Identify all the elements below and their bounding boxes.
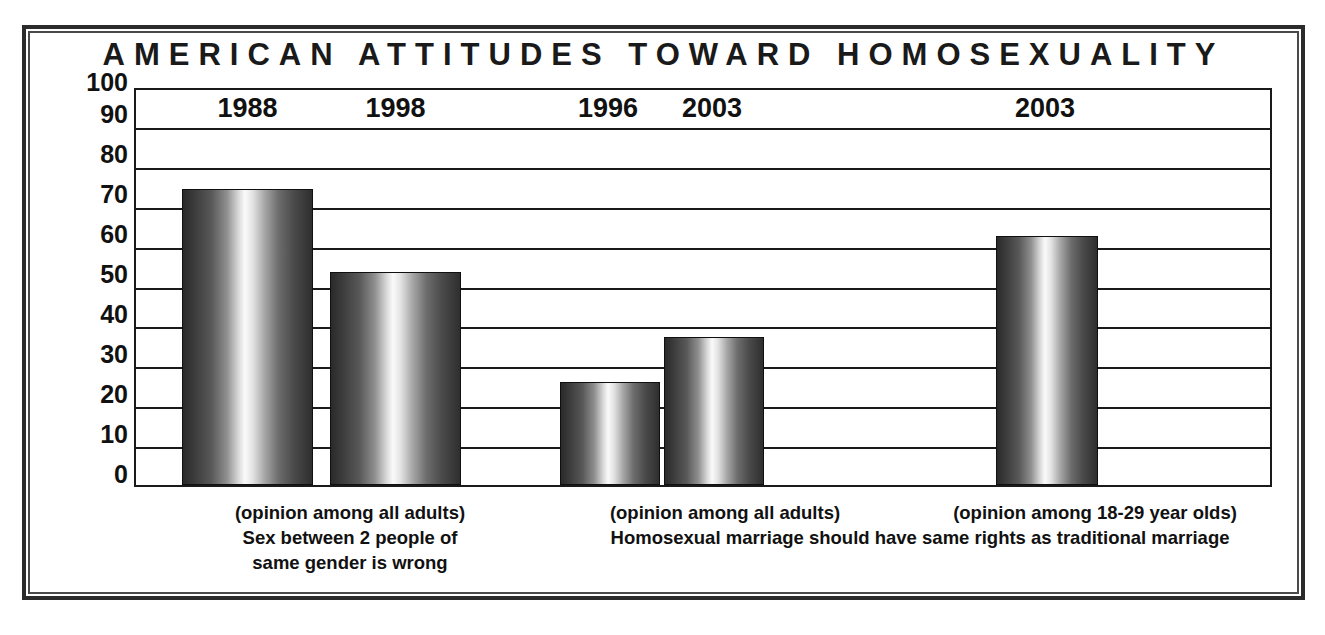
year-label-2003-all-adults: 2003 [662,93,762,124]
chart-title: AMERICAN ATTITUDES TOWARD HOMOSEXUALITY [28,33,1299,77]
y-tick-40: 40 [36,302,128,327]
gridline-90 [136,128,1270,130]
caption-group-1-population: (opinion among all adults) [150,500,550,525]
y-tick-70: 70 [36,182,128,207]
y-tick-10: 10 [36,422,128,447]
bar-1998 [330,272,461,485]
bar-1996 [560,382,660,485]
caption-group-1-question-line-2: same gender is wrong [150,550,550,575]
y-tick-50: 50 [36,262,128,287]
y-tick-80: 80 [36,142,128,167]
y-tick-90: 90 [36,102,128,127]
year-label-1998: 1998 [330,93,461,124]
year-label-1996: 1996 [558,93,658,124]
caption-group-1: (opinion among all adults) Sex between 2… [150,500,550,575]
bar-2003-18-29 [996,236,1098,485]
y-tick-30: 30 [36,342,128,367]
plot-area [134,88,1272,487]
y-tick-60: 60 [36,222,128,247]
caption-group-2-population: (opinion among all adults) [560,500,890,525]
gridline-80 [136,168,1270,170]
bar-2003-all-adults [664,337,764,485]
year-label-2003-18-29: 2003 [994,93,1096,124]
caption-group-2-population-text: (opinion among all adults) [560,500,890,525]
y-axis: 100 90 80 70 60 50 40 30 20 10 0 [36,70,128,510]
y-tick-20: 20 [36,382,128,407]
bar-1988 [182,189,313,485]
year-label-1988: 1988 [182,93,313,124]
y-tick-0: 0 [36,462,128,487]
caption-group-1-question-line-1: Sex between 2 people of [150,525,550,550]
y-tick-100: 100 [36,70,128,95]
caption-group-3-population-text: (opinion among 18-29 year olds) [900,500,1290,525]
caption-group-3-population: (opinion among 18-29 year olds) [900,500,1290,525]
caption-shared-question: Homosexual marriage should have same rig… [540,525,1300,550]
caption-shared-question-text: Homosexual marriage should have same rig… [540,525,1300,550]
chart-screenshot: AMERICAN ATTITUDES TOWARD HOMOSEXUALITY … [0,0,1325,635]
